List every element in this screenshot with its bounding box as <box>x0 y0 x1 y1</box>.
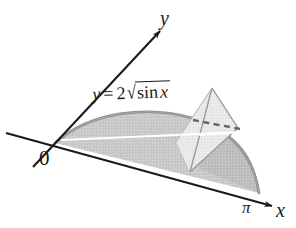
solid-of-revolution-diagram <box>0 0 296 228</box>
figure-container: y x 0 π y=2√sinx <box>0 0 296 228</box>
